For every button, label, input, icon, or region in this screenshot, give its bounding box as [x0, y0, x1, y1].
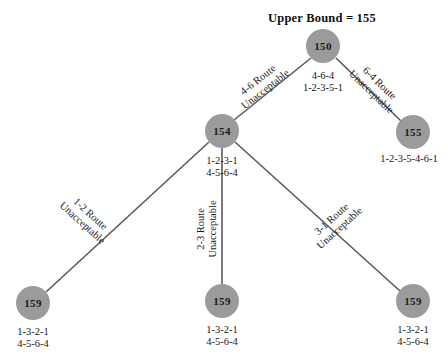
node-caption-cap_leaf_mid: 1-3-2-14-5-6-4	[206, 324, 238, 349]
node-caption-cap_leaf_mid-line2: 4-5-6-4	[206, 336, 238, 348]
root-node-caption: 4-6-41-2-3-5-1	[303, 70, 343, 95]
node-154-caption-line2: 4-5-6-4	[206, 167, 238, 179]
tree-node-circle[interactable]	[306, 29, 340, 63]
node-caption-cap155: 1-2-3-5-4-6-1	[380, 153, 438, 165]
edge-label-lbl-2-3-line1: 2-3 Route	[195, 200, 207, 257]
tree-node-circle[interactable]	[205, 114, 239, 148]
tree-node-circle[interactable]	[205, 284, 239, 318]
edge-label-lbl-2-3: 2-3 RouteUnacceptable	[195, 200, 220, 257]
tree-node-circle[interactable]	[16, 286, 50, 320]
tree-node-circle[interactable]	[396, 284, 430, 318]
tree-node-circle[interactable]	[396, 115, 430, 149]
node-caption-cap_leaf_left-line2: 4-5-6-4	[17, 338, 49, 350]
root-node-caption-line1: 4-6-4	[303, 70, 343, 82]
node-caption-cap_leaf_left: 1-3-2-14-5-6-4	[17, 326, 49, 351]
node-154-caption-line1: 1-2-3-1	[206, 155, 238, 167]
node-caption-cap_leaf_right-line2: 4-5-6-4	[397, 336, 429, 348]
node-caption-cap_leaf_left-line1: 1-3-2-1	[17, 326, 49, 338]
tree-edge	[235, 142, 400, 291]
edge-label-lbl-2-3-line2: Unacceptable	[207, 200, 219, 257]
node-caption-cap_leaf_right-line1: 1-3-2-1	[397, 324, 429, 336]
node-caption-cap_leaf_mid-line1: 1-3-2-1	[206, 324, 238, 336]
root-node-caption-line2: 1-2-3-5-1	[303, 82, 343, 94]
node-caption-cap155-line1: 1-2-3-5-4-6-1	[380, 153, 438, 165]
branch-and-bound-tree-diagram: Upper Bound = 155 1501541551591591594-6-…	[0, 0, 448, 357]
node-caption-cap_leaf_right: 1-3-2-14-5-6-4	[397, 324, 429, 349]
page-title: Upper Bound = 155	[268, 11, 376, 26]
node-154-caption: 1-2-3-14-5-6-4	[206, 155, 238, 180]
